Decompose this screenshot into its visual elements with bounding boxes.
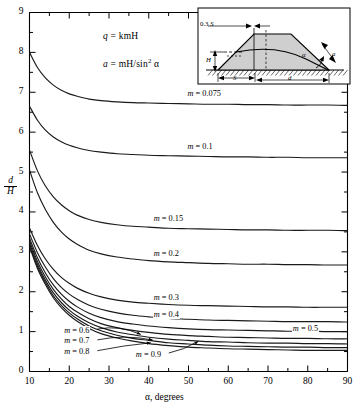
- curve-m-0p4: [30, 234, 348, 322]
- y-tick-label: 9: [8, 6, 24, 16]
- curve-label: m = 0.2: [153, 249, 180, 258]
- y-axis-title-numerator: d: [4, 176, 17, 186]
- y-tick-label: 1: [8, 325, 24, 335]
- x-tick-label: 70: [254, 376, 282, 386]
- curve-m-0p2: [30, 170, 348, 265]
- curve-label: m = 0.075: [187, 89, 223, 98]
- inset-label-slope-angle: α: [302, 51, 306, 58]
- x-tick-label: 90: [334, 376, 360, 386]
- chart-canvas: [0, 0, 360, 414]
- y-tick-label: 0: [8, 365, 24, 375]
- x-tick-label: 30: [95, 376, 123, 386]
- curve-label: m = 0.1: [187, 142, 214, 151]
- curve-label: m = 0.6: [63, 326, 90, 335]
- equation-discharge: q = kmH: [103, 31, 138, 41]
- y-axis-title-denominator: H: [4, 186, 17, 197]
- y-tick-label: 2: [8, 285, 24, 295]
- curve-label: m = 0.15: [153, 214, 184, 223]
- curve-m-0p3: [30, 228, 348, 307]
- equation-thickness: a = mH/sin2 α: [103, 57, 159, 69]
- inset-label-base-width: d: [288, 74, 291, 81]
- curve-m-0p5: [30, 238, 348, 332]
- x-axis-title: α, degrees: [145, 392, 184, 402]
- curve-label: m = 0.3: [153, 293, 180, 302]
- inset-label-base-offset: S: [233, 74, 236, 81]
- y-axis-title: dH: [4, 176, 17, 196]
- inset-label-height: H: [206, 56, 211, 63]
- curve-label: m = 0.9: [135, 350, 162, 359]
- y-tick-label: 7: [8, 86, 24, 96]
- inset-embankment-diagram: [198, 8, 350, 84]
- curve-label: m = 0.4: [153, 310, 180, 319]
- x-tick-label: 20: [55, 376, 83, 386]
- x-tick-label: 60: [214, 376, 242, 386]
- x-tick-label: 40: [135, 376, 163, 386]
- curve-label: m = 0.8: [63, 347, 90, 356]
- y-tick-label: 4: [8, 205, 24, 215]
- x-tick-label: 80: [294, 376, 322, 386]
- y-tick-label: 3: [8, 245, 24, 255]
- figure-seepage-chart: 1020304050607080900123456789α, degreesdH…: [0, 0, 360, 414]
- curve-label: m = 0.5: [292, 324, 319, 333]
- x-tick-label: 10: [16, 376, 44, 386]
- y-tick-label: 6: [8, 126, 24, 136]
- inset-label-thickness: a: [332, 50, 335, 57]
- y-tick-label: 8: [8, 46, 24, 56]
- curve-m-0p15: [30, 150, 348, 231]
- curve-label: m = 0.7: [63, 336, 90, 345]
- inset-label-crest-offset: 0.3 S: [200, 20, 214, 27]
- x-tick-label: 50: [175, 376, 203, 386]
